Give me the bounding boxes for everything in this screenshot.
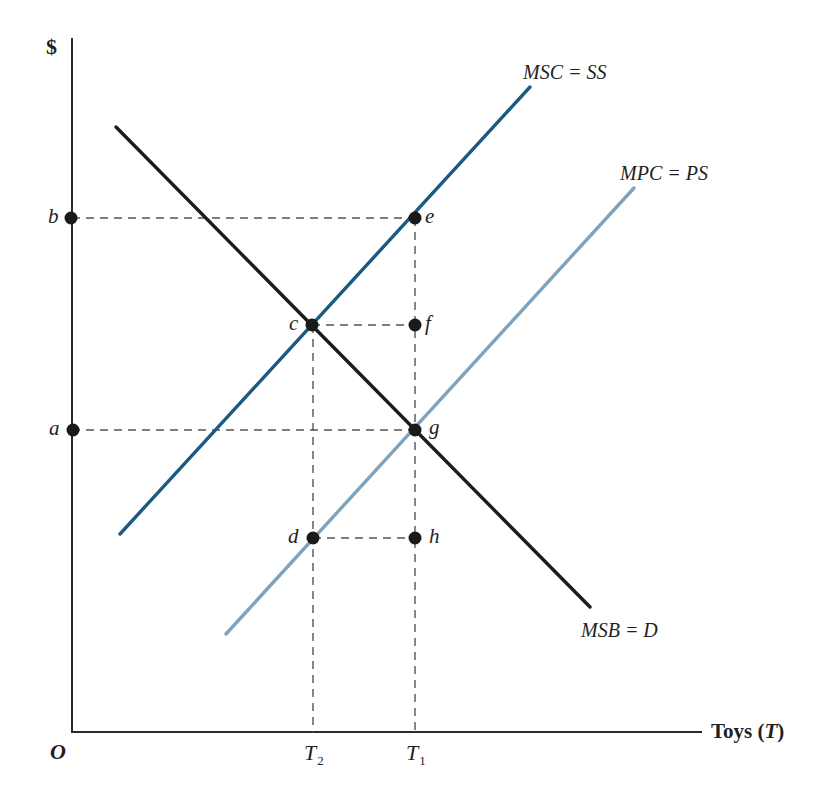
point-c-label: c (289, 313, 298, 334)
point-d-dot (307, 532, 320, 545)
point-c-dot (306, 319, 319, 332)
point-f-label: f (425, 313, 431, 334)
mpc-curve-label: MPC = PS (620, 163, 708, 183)
point-h-label: h (429, 526, 440, 547)
x-axis-label-prefix: Toys ( (711, 719, 765, 743)
msc-curve-label: MSC = SS (523, 62, 607, 82)
msb-curve (116, 127, 590, 607)
point-h-dot (409, 532, 422, 545)
origin-label: O (50, 741, 66, 763)
tick-t2: T2 (304, 742, 324, 767)
msb-curve-label: MSB = D (581, 620, 658, 640)
tick-a-label: a (49, 418, 60, 439)
tick-t2-base: T (304, 740, 316, 765)
tick-t1-sub: 1 (419, 753, 426, 768)
tick-t2-sub: 2 (317, 753, 324, 768)
x-axis-label-suffix: ) (777, 719, 784, 743)
point-d-label: d (288, 526, 299, 547)
point-b-dot (65, 212, 78, 225)
point-g-label: g (429, 417, 440, 438)
y-axis-label: $ (46, 36, 57, 58)
tick-t1-base: T (406, 740, 418, 765)
x-axis-label-var: T (765, 719, 778, 743)
msc-curve (120, 87, 530, 534)
tick-b-label: b (48, 206, 59, 227)
point-g-dot (409, 424, 422, 437)
economics-diagram: $ O Toys (T) T2 T1 b a e c f g d h MSC =… (0, 0, 814, 792)
tick-t1: T1 (406, 742, 426, 767)
x-axis-label: Toys (T) (711, 721, 784, 742)
point-a-dot (67, 424, 80, 437)
point-f-dot (409, 319, 422, 332)
mpc-curve (226, 188, 634, 634)
point-e-label: e (425, 206, 434, 227)
point-e-dot (409, 212, 422, 225)
